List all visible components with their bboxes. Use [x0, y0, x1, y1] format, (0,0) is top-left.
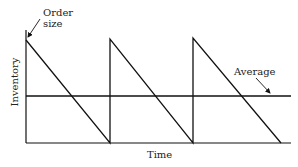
- order-size-label-line2: size: [43, 18, 63, 29]
- inventory-sawtooth-diagram: Order size Average Time Inventory: [0, 0, 298, 167]
- order-size-arrow-icon: [28, 19, 40, 37]
- x-axis-label: Time: [147, 149, 172, 160]
- y-axis-label: Inventory: [9, 57, 20, 106]
- average-arrow-icon: [256, 78, 270, 93]
- average-label: Average: [233, 66, 276, 77]
- inventory-sawtooth-line: [26, 38, 281, 143]
- order-size-label-line1: Order: [43, 7, 73, 18]
